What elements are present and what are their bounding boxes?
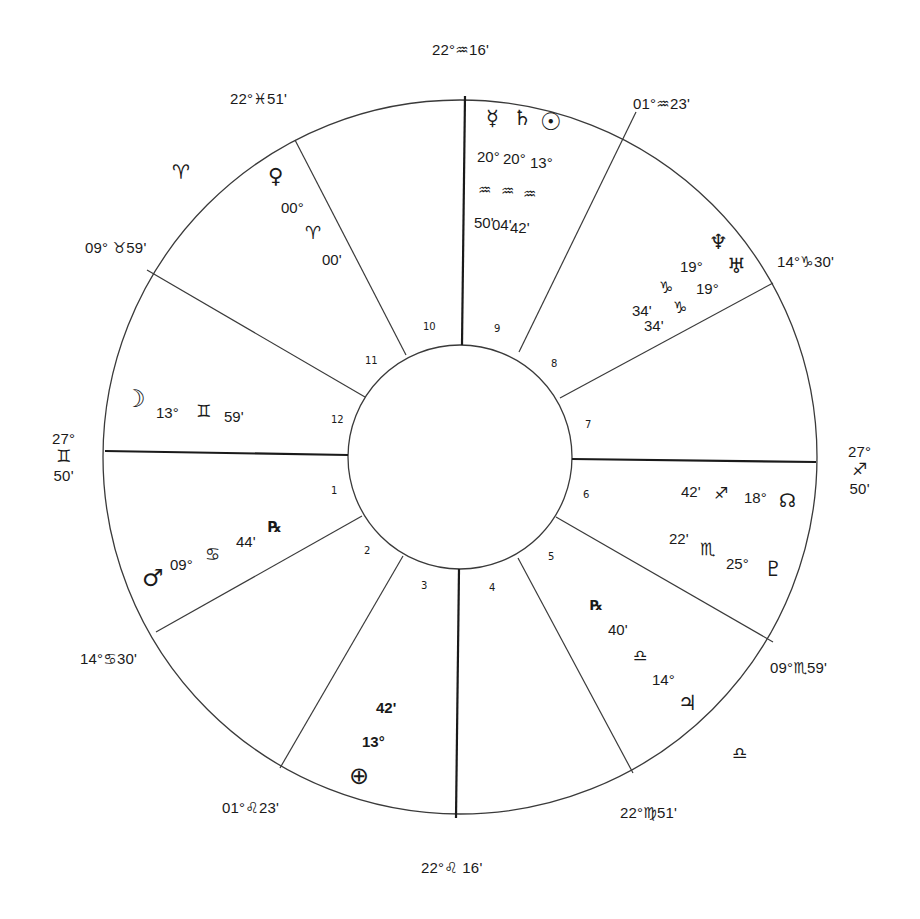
cusp-line-mc (462, 96, 465, 345)
neptune-degree: 19° (680, 259, 703, 274)
cusp-label-ic: 22°♌ 16' (421, 860, 482, 876)
house-number-1: 1 (331, 486, 337, 496)
cusp-line-8 (560, 283, 773, 398)
house-number-12: 12 (331, 415, 344, 425)
house-number-7: 7 (585, 420, 591, 430)
cusp-label-mc: 22°♒16' (432, 42, 489, 58)
earth-degree: 13° (362, 734, 385, 749)
neptune-icon: ♆ (709, 232, 728, 253)
node-sign-icon: ♐ (714, 486, 728, 502)
cusp-line-9 (519, 112, 636, 352)
moon-minutes: 59' (224, 409, 244, 424)
house-number-10: 10 (423, 322, 436, 332)
venus-sign-icon: ♈ (305, 224, 321, 242)
sun-icon: ☉ (540, 110, 562, 134)
neptune-minutes: 34' (632, 303, 652, 318)
cusp-label-12: 09° ♉59' (85, 240, 146, 256)
venus-minutes: 00' (322, 252, 342, 267)
house-number-8: 8 (551, 359, 557, 369)
pluto-minutes: 22' (669, 531, 689, 546)
sun-minutes: 42' (510, 220, 530, 235)
mars-sign-icon: ♋ (205, 546, 220, 563)
cusp-line-6 (556, 517, 773, 642)
moon-degree: 13° (156, 405, 179, 420)
neptune-sign-icon: ♑ (659, 280, 673, 296)
house-number-2: 2 (364, 546, 370, 556)
earth-minutes: 42' (376, 700, 396, 715)
cusp-label-5: 22°♍51' (620, 805, 677, 821)
jupiter-icon: ♃ (678, 693, 697, 714)
jupiter-sign-icon: ♎ (633, 648, 647, 664)
moon-icon: ☽ (124, 387, 146, 411)
inner-circle (348, 345, 572, 569)
mars-minutes: 44' (236, 534, 256, 549)
pluto-icon: ♇ (764, 559, 783, 580)
sun-sign-icon: ♒ (523, 187, 536, 202)
cusp-label-asc: 27°♊50' (52, 430, 75, 484)
intercepted-aries-icon: ♈ (172, 162, 190, 182)
house-number-4: 4 (489, 583, 495, 593)
house-number-6: 6 (583, 490, 589, 500)
cusp-label-6: 09°♏59' (770, 660, 827, 676)
venus-icon: ♀ (268, 166, 283, 187)
venus-degree: 00° (281, 200, 304, 215)
cusp-label-11: 22°♓51' (230, 91, 287, 107)
house-number-5: 5 (548, 552, 554, 562)
house-number-9: 9 (494, 324, 500, 334)
mars-retrograde-icon: ℞ (268, 520, 281, 535)
cusp-line-2 (156, 516, 362, 632)
jupiter-degree: 14° (652, 672, 675, 687)
cusp-line-12 (147, 270, 365, 397)
mercury-degree: 20° (477, 149, 500, 164)
mercury-sign-icon: ♒ (478, 183, 491, 198)
natal-chart-wheel (0, 0, 920, 919)
cusp-label-3: 01°♌23' (222, 800, 279, 816)
cusp-line-5 (518, 558, 633, 773)
node-minutes: 42' (681, 484, 701, 499)
cusp-line-ic (456, 569, 459, 818)
pluto-degree: 25° (726, 556, 749, 571)
cusp-label-2: 14°♋30' (80, 651, 137, 667)
uranus-minutes: 34' (644, 318, 664, 333)
mercury-icon: ☿ (486, 108, 499, 129)
jupiter-minutes: 40' (608, 622, 628, 637)
house-number-3: 3 (421, 581, 427, 591)
uranus-sign-icon: ♑ (673, 300, 687, 316)
mercury-minutes: 50' (474, 215, 494, 230)
outer-circle (103, 100, 817, 814)
uranus-icon: ♅ (727, 256, 746, 277)
saturn-sign-icon: ♒ (501, 184, 514, 199)
earth-icon: ⊕ (349, 764, 369, 788)
saturn-degree: 20° (503, 151, 526, 166)
mars-icon: ♂ (142, 566, 164, 590)
node-degree: 18° (744, 490, 767, 505)
cusp-line-dsc (572, 459, 816, 462)
node-icon: ☊ (779, 491, 796, 510)
saturn-minutes: 04' (492, 217, 512, 232)
pluto-sign-icon: ♏ (700, 541, 715, 558)
intercepted-libra-icon: ♎ (732, 745, 747, 762)
cusp-line-asc (105, 451, 348, 455)
moon-sign-icon: ♊ (196, 403, 211, 420)
jupiter-retrograde-icon: ℞ (590, 598, 603, 612)
cusp-label-dsc: 27°♐50' (848, 443, 871, 497)
mars-degree: 09° (170, 557, 193, 572)
uranus-degree: 19° (696, 281, 719, 296)
saturn-icon: ♄ (513, 108, 532, 129)
cusp-label-9: 01°♒23' (633, 96, 690, 112)
cusp-label-8: 14°♑30' (777, 254, 834, 270)
sun-degree: 13° (530, 155, 553, 170)
cusp-line-11 (295, 140, 406, 355)
house-number-11: 11 (365, 356, 378, 366)
